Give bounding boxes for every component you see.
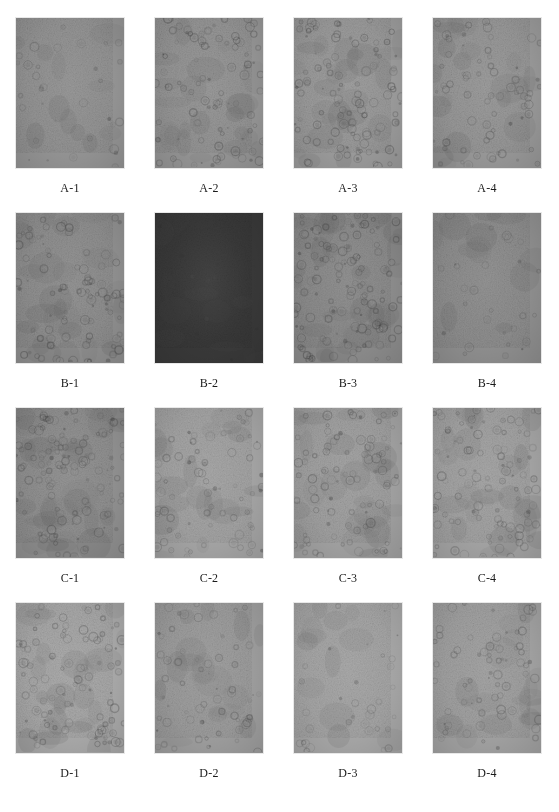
panel-caption: B-3: [339, 377, 358, 389]
micrograph-panel-c-2: C-2: [154, 407, 264, 597]
micrograph-image: [293, 17, 403, 169]
micrograph-panel-c-3: C-3: [293, 407, 403, 597]
vignette-overlay: [433, 603, 541, 753]
micrograph-image: [432, 407, 542, 559]
micrograph-panel-a-3: A-3: [293, 17, 403, 207]
panel-caption: A-3: [338, 182, 357, 194]
micrograph-panel-a-4: A-4: [432, 17, 542, 207]
panel-caption: B-4: [478, 377, 497, 389]
vignette-overlay: [433, 213, 541, 363]
micrograph-image: [154, 212, 264, 364]
vignette-overlay: [155, 408, 263, 558]
micrograph-panel-b-4: B-4: [432, 212, 542, 402]
panel-caption: C-2: [200, 572, 219, 584]
micrograph-image: [154, 407, 264, 559]
vignette-overlay: [155, 603, 263, 753]
micrograph-panel-d-1: D-1: [15, 602, 125, 792]
micrograph-panel-grid: A-1A-2A-3A-4B-1B-2B-3B-4C-1C-2C-3C-4D-1D…: [0, 0, 559, 812]
panel-caption: D-4: [477, 767, 496, 779]
micrograph-image: [154, 17, 264, 169]
vignette-overlay: [16, 213, 124, 363]
micrograph-panel-b-3: B-3: [293, 212, 403, 402]
vignette-overlay: [155, 18, 263, 168]
vignette-overlay: [155, 213, 263, 363]
micrograph-panel-d-2: D-2: [154, 602, 264, 792]
micrograph-panel-d-3: D-3: [293, 602, 403, 792]
figure-sheet: A-1A-2A-3A-4B-1B-2B-3B-4C-1C-2C-3C-4D-1D…: [0, 0, 559, 812]
vignette-overlay: [294, 408, 402, 558]
micrograph-image: [293, 602, 403, 754]
micrograph-image: [15, 17, 125, 169]
vignette-overlay: [16, 18, 124, 168]
micrograph-panel-c-1: C-1: [15, 407, 125, 597]
micrograph-panel-c-4: C-4: [432, 407, 542, 597]
vignette-overlay: [16, 408, 124, 558]
panel-caption: D-1: [60, 767, 79, 779]
micrograph-panel-d-4: D-4: [432, 602, 542, 792]
vignette-overlay: [294, 603, 402, 753]
vignette-overlay: [433, 18, 541, 168]
panel-caption: B-1: [61, 377, 80, 389]
micrograph-image: [432, 17, 542, 169]
micrograph-image: [15, 407, 125, 559]
micrograph-image: [15, 212, 125, 364]
panel-caption: A-1: [60, 182, 79, 194]
micrograph-image: [293, 407, 403, 559]
micrograph-panel-b-1: B-1: [15, 212, 125, 402]
vignette-overlay: [294, 18, 402, 168]
micrograph-image: [154, 602, 264, 754]
micrograph-image: [432, 212, 542, 364]
vignette-overlay: [433, 408, 541, 558]
panel-caption: C-3: [339, 572, 358, 584]
panel-caption: B-2: [200, 377, 219, 389]
vignette-overlay: [294, 213, 402, 363]
micrograph-panel-b-2: B-2: [154, 212, 264, 402]
micrograph-image: [293, 212, 403, 364]
micrograph-image: [15, 602, 125, 754]
vignette-overlay: [16, 603, 124, 753]
micrograph-panel-a-1: A-1: [15, 17, 125, 207]
panel-caption: C-4: [478, 572, 497, 584]
panel-caption: A-2: [199, 182, 218, 194]
panel-caption: C-1: [61, 572, 80, 584]
panel-caption: D-3: [338, 767, 357, 779]
panel-caption: A-4: [477, 182, 496, 194]
micrograph-image: [432, 602, 542, 754]
panel-caption: D-2: [199, 767, 218, 779]
micrograph-panel-a-2: A-2: [154, 17, 264, 207]
